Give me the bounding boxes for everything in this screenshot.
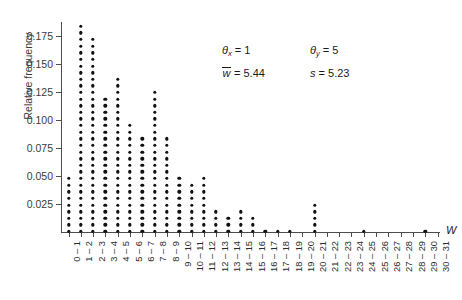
data-point-dot	[79, 97, 82, 100]
data-point-dot	[153, 163, 156, 166]
data-point-dot	[104, 203, 107, 206]
y-axis-tick-label: 0.150	[27, 58, 53, 70]
x-axis-tick-label: 6 – 7	[146, 241, 156, 262]
data-point-dot	[141, 163, 144, 166]
data-point-dot	[104, 223, 107, 226]
x-axis-tick-label: 5 – 6	[134, 241, 144, 262]
x-axis-tick-mark	[93, 232, 94, 237]
x-axis-tick-label: 1 – 2	[84, 241, 94, 262]
data-point-dot	[116, 137, 119, 140]
x-axis-tick-mark	[438, 232, 439, 237]
x-axis-tick-label: 13 – 14	[232, 241, 242, 272]
data-point-dot	[202, 210, 205, 213]
data-point-dot	[79, 58, 82, 61]
data-point-dot	[141, 144, 144, 147]
x-axis-tick-mark	[290, 232, 291, 237]
data-point-dot	[116, 117, 119, 120]
data-point-dot	[91, 177, 94, 180]
x-axis-tick-mark	[401, 232, 402, 237]
annotation-row-theta: θx = 1 θy = 5	[222, 44, 398, 58]
x-axis-tick-label: 21 – 22	[330, 241, 340, 272]
data-point-dot	[79, 44, 82, 47]
data-point-dot	[128, 216, 131, 219]
x-axis-tick-label: 16 – 17	[269, 241, 279, 272]
data-point-dot	[190, 197, 193, 200]
x-axis-tick-mark	[351, 232, 352, 237]
data-point-dot	[104, 137, 107, 140]
annotation-mean: w = 5.44	[222, 67, 310, 80]
data-point-dot	[116, 163, 119, 166]
annotation-sd-value: 5.23	[328, 67, 349, 79]
data-point-dot	[251, 223, 254, 226]
data-point-dot	[153, 111, 156, 114]
data-point-dot	[214, 210, 217, 213]
data-point-dot	[67, 210, 70, 213]
data-point-dot	[153, 144, 156, 147]
data-point-dot	[79, 111, 82, 114]
data-point-dot	[313, 223, 316, 226]
data-point-dot	[128, 203, 131, 206]
data-point-dot	[141, 183, 144, 186]
data-point-dot	[79, 177, 82, 180]
x-axis-tick-mark	[388, 232, 389, 237]
x-axis-label: W	[446, 224, 456, 236]
annotation-theta-y: θy = 5	[310, 44, 398, 58]
data-point-dot	[153, 197, 156, 200]
annotation-theta-x-value: 1	[244, 44, 250, 56]
data-point-dot	[190, 210, 193, 213]
data-point-dot	[141, 170, 144, 173]
data-point-dot	[177, 210, 180, 213]
data-point-dot	[104, 190, 107, 193]
data-point-dot	[165, 170, 168, 173]
data-point-dot	[239, 216, 242, 219]
x-axis-tick-mark	[192, 232, 193, 237]
data-point-dot	[153, 203, 156, 206]
data-point-dot	[104, 216, 107, 219]
data-point-dot	[190, 216, 193, 219]
x-axis-tick-mark	[253, 232, 254, 237]
x-axis-tick-mark	[265, 232, 266, 237]
data-point-dot	[104, 150, 107, 153]
data-point-dot	[104, 170, 107, 173]
data-point-dot	[104, 163, 107, 166]
x-axis-tick-label: 15 – 16	[257, 241, 267, 272]
x-axis-tick-label: 3 – 4	[109, 241, 119, 262]
x-axis-tick-mark	[315, 232, 316, 237]
x-axis-tick-label: 29 – 30	[429, 241, 439, 272]
data-point-dot	[177, 190, 180, 193]
data-point-dot	[104, 157, 107, 160]
data-point-dot	[153, 210, 156, 213]
statistics-annotations: θx = 1 θy = 5 w = 5.44 s = 5.23	[222, 44, 398, 88]
data-point-dot	[202, 223, 205, 226]
data-point-dot	[91, 84, 94, 87]
data-point-dot	[214, 223, 217, 226]
x-axis-tick-mark	[69, 232, 70, 237]
data-point-dot	[116, 177, 119, 180]
data-point-dot	[116, 77, 119, 80]
data-point-dot	[116, 97, 119, 100]
data-point-dot	[141, 190, 144, 193]
data-point-dot	[79, 150, 82, 153]
data-point-dot	[79, 170, 82, 173]
data-point-dot	[202, 177, 205, 180]
data-point-dot	[91, 130, 94, 133]
data-point-dot	[91, 144, 94, 147]
data-point-dot	[202, 197, 205, 200]
y-axis-tick-mark	[56, 36, 62, 37]
data-point-dot	[91, 210, 94, 213]
data-point-dot	[79, 130, 82, 133]
data-point-dot	[128, 144, 131, 147]
data-point-dot	[104, 177, 107, 180]
x-axis-tick-label: 12 – 13	[220, 241, 230, 272]
annotation-sd: s = 5.23	[310, 67, 398, 80]
data-point-dot	[91, 111, 94, 114]
data-point-dot	[165, 216, 168, 219]
data-point-dot	[202, 216, 205, 219]
data-point-dot	[91, 203, 94, 206]
data-point-dot	[141, 157, 144, 160]
data-point-dot	[116, 91, 119, 94]
dot-plot-chart: Relative frequency 0.1750.1500.1250.1000…	[0, 0, 462, 300]
annotation-row-stats: w = 5.44 s = 5.23	[222, 67, 398, 80]
data-point-dot	[177, 177, 180, 180]
data-point-dot	[128, 183, 131, 186]
